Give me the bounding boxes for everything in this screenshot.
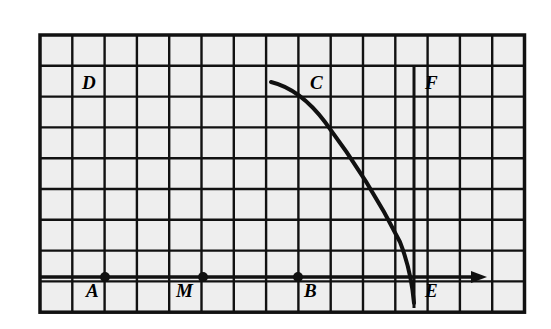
grid-cell	[492, 127, 524, 158]
grid-cell	[428, 189, 460, 220]
grid-cell	[331, 281, 363, 312]
grid-cell	[331, 189, 363, 220]
point-dot-M	[198, 272, 208, 282]
grid-cell	[492, 66, 524, 97]
grid-cell	[298, 158, 330, 189]
grid-cells	[40, 35, 525, 312]
grid-cell	[234, 220, 266, 251]
grid-cell	[40, 66, 72, 97]
grid-cell	[395, 66, 427, 97]
geometry-diagram: AMBDCFE	[0, 0, 551, 329]
grid-cell	[202, 35, 234, 66]
grid-cell	[460, 220, 492, 251]
point-label-E: E	[424, 280, 438, 301]
grid-cell	[460, 281, 492, 312]
grid-cell	[331, 158, 363, 189]
grid-cell	[298, 127, 330, 158]
grid-cell	[169, 220, 201, 251]
grid-cell	[202, 281, 234, 312]
grid-cell	[137, 158, 169, 189]
grid-cell	[266, 281, 298, 312]
grid-cell	[266, 220, 298, 251]
point-label-A: A	[85, 280, 99, 301]
grid-cell	[137, 189, 169, 220]
grid-cell	[395, 97, 427, 128]
grid-cell	[492, 189, 524, 220]
point-label-D: D	[81, 72, 96, 93]
grid-cell	[395, 189, 427, 220]
grid-cell	[234, 127, 266, 158]
grid-cell	[234, 189, 266, 220]
grid-cell	[428, 127, 460, 158]
grid-cell	[363, 66, 395, 97]
grid-cell	[72, 97, 104, 128]
grid-cell	[363, 97, 395, 128]
grid-cell	[266, 158, 298, 189]
grid-cell	[331, 97, 363, 128]
figure-page: AMBDCFE	[0, 0, 551, 329]
grid-cell	[460, 35, 492, 66]
grid-cell	[169, 127, 201, 158]
grid-cell	[72, 189, 104, 220]
grid-cell	[460, 66, 492, 97]
grid-cell	[266, 97, 298, 128]
grid-cell	[234, 66, 266, 97]
grid-cell	[40, 220, 72, 251]
grid-cell	[40, 281, 72, 312]
point-label-C: C	[310, 72, 323, 93]
grid-cell	[105, 35, 137, 66]
grid-cell	[234, 158, 266, 189]
grid-cell	[105, 127, 137, 158]
grid-cell	[72, 220, 104, 251]
grid-cell	[363, 281, 395, 312]
grid-cell	[492, 281, 524, 312]
grid-cell	[169, 158, 201, 189]
grid-cell	[137, 127, 169, 158]
grid-cell	[202, 220, 234, 251]
grid-cell	[298, 189, 330, 220]
grid-cell	[395, 158, 427, 189]
grid-cell	[266, 127, 298, 158]
grid-cell	[169, 35, 201, 66]
grid-cell	[460, 189, 492, 220]
grid-cell	[169, 66, 201, 97]
grid-cell	[234, 97, 266, 128]
grid-cell	[40, 97, 72, 128]
grid-cell	[137, 66, 169, 97]
grid-cell	[298, 220, 330, 251]
grid-cell	[492, 35, 524, 66]
grid-cell	[202, 97, 234, 128]
grid-cell	[234, 35, 266, 66]
grid-cell	[428, 220, 460, 251]
grid-cell	[169, 189, 201, 220]
grid-cell	[428, 35, 460, 66]
grid-cell	[460, 97, 492, 128]
point-dot-B	[293, 272, 303, 282]
grid-cell	[331, 35, 363, 66]
grid-cell	[105, 281, 137, 312]
grid-cell	[202, 158, 234, 189]
grid-cell	[105, 158, 137, 189]
grid-cell	[363, 35, 395, 66]
grid-cell	[363, 127, 395, 158]
grid-cell	[72, 158, 104, 189]
grid-cell	[234, 281, 266, 312]
grid-cell	[40, 127, 72, 158]
grid-cell	[169, 97, 201, 128]
grid-cell	[40, 189, 72, 220]
grid-cell	[298, 35, 330, 66]
grid-cell	[137, 35, 169, 66]
point-label-F: F	[424, 72, 438, 93]
grid-cell	[428, 97, 460, 128]
point-label-M: M	[175, 280, 194, 301]
point-dot-A	[100, 272, 110, 282]
grid-cell	[266, 189, 298, 220]
grid-cell	[460, 158, 492, 189]
grid-cell	[72, 35, 104, 66]
grid-cell	[428, 158, 460, 189]
grid-cell	[105, 220, 137, 251]
grid-cell	[395, 127, 427, 158]
grid-cell	[492, 220, 524, 251]
grid-cell	[492, 158, 524, 189]
grid-cell	[105, 97, 137, 128]
